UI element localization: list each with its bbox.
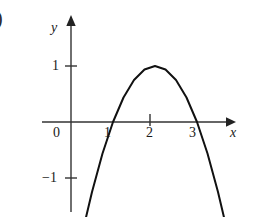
parabola-figure: ) y x 1 −1 0 1 2 3 xyxy=(0,0,256,217)
fragment-parenthesis: ) xyxy=(0,8,3,28)
y-tick-label-minus-1: −1 xyxy=(42,171,57,185)
x-tick-label-2: 2 xyxy=(146,126,153,140)
x-axis-label: x xyxy=(230,126,236,140)
canvas-background xyxy=(0,0,256,217)
y-axis-label: y xyxy=(51,21,57,35)
y-tick-label-1: 1 xyxy=(52,59,59,73)
graph-canvas xyxy=(0,0,256,217)
x-tick-label-1: 1 xyxy=(104,126,111,140)
origin-label: 0 xyxy=(53,126,60,140)
x-tick-label-3: 3 xyxy=(189,126,196,140)
